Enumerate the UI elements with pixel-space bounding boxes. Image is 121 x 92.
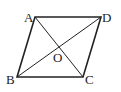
parallelogram-diagram: A D B C O bbox=[0, 0, 121, 92]
diagonal-bd bbox=[17, 17, 101, 77]
vertex-label-c: C bbox=[85, 72, 94, 87]
intersection-label-o: O bbox=[53, 50, 62, 65]
vertex-label-b: B bbox=[6, 72, 15, 87]
vertex-label-d: D bbox=[102, 10, 111, 25]
vertex-label-a: A bbox=[24, 10, 34, 25]
